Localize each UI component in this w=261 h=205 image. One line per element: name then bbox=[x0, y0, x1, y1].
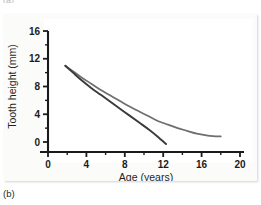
x-tick-label: 8 bbox=[122, 159, 128, 170]
x-tick-label: 20 bbox=[234, 159, 246, 170]
x-tick-label: 0 bbox=[45, 159, 51, 170]
panel-label-b: (b) bbox=[3, 188, 15, 199]
tooth-height-vs-age-chart: 0481216048121620Age (years)Tooth height … bbox=[4, 14, 257, 181]
y-tick-label: 4 bbox=[34, 109, 40, 120]
y-tick-label: 8 bbox=[34, 81, 40, 92]
y-tick-label: 16 bbox=[29, 26, 41, 37]
y-axis-title: Tooth height (mm) bbox=[6, 44, 18, 129]
panel-label-a: (a) bbox=[3, 0, 14, 3]
y-tick-label: 12 bbox=[29, 53, 41, 64]
y-tick-label: 0 bbox=[34, 137, 40, 148]
x-tick-label: 12 bbox=[158, 159, 170, 170]
figure-panel-b: 0481216048121620Age (years)Tooth height … bbox=[4, 14, 257, 181]
x-tick-label: 4 bbox=[84, 159, 90, 170]
x-axis-title: Age (years) bbox=[119, 171, 173, 181]
x-tick-label: 16 bbox=[196, 159, 208, 170]
